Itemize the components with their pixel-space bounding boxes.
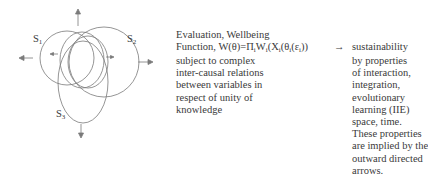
body-line: knowledge	[176, 104, 264, 116]
arrow-down-icon	[79, 124, 84, 138]
title-line-2: Function, W(θ)=ΠiWi(Xi(θi(εi))	[176, 41, 308, 53]
body-line: between variables in	[176, 79, 264, 91]
body-line: These properties	[352, 128, 428, 140]
arrow-left-icon	[19, 56, 33, 61]
label-s2: S2	[127, 33, 136, 44]
body-line: subject to complex	[176, 55, 264, 67]
body-line: arrows.	[352, 165, 428, 177]
title-line-1: Evaluation, Wellbeing	[176, 29, 308, 41]
sustainability-description: by properties of interaction, integratio…	[352, 55, 428, 177]
right-arrow-icon: →	[334, 41, 345, 53]
inner-ellipse-a	[60, 32, 104, 88]
label-s1: S1	[33, 33, 42, 44]
sustainability-title: sustainability	[352, 41, 408, 53]
interaction-diagram	[0, 0, 160, 150]
wellbeing-function-title: Evaluation, Wellbeing Function, W(θ)=ΠiW…	[176, 29, 308, 53]
body-line: are implied by the	[352, 140, 428, 152]
body-line: outward directed	[352, 153, 428, 165]
label-s3: S3	[56, 108, 65, 119]
body-line: respect of unity of	[176, 92, 264, 104]
inner-arrow-left-icon	[50, 53, 58, 56]
arrow-right-icon	[138, 60, 153, 65]
arrow-up-icon	[76, 9, 81, 26]
wellbeing-description: subject to complex inter-causal relation…	[176, 55, 264, 116]
inner-ellipse-b	[68, 36, 108, 88]
body-line: space, time.	[352, 116, 428, 128]
body-line: evolutionary	[352, 92, 428, 104]
body-line: learning (IIE)	[352, 104, 428, 116]
body-line: integration,	[352, 79, 428, 91]
body-line: inter-causal relations	[176, 67, 264, 79]
body-line: by properties	[352, 55, 428, 67]
body-line: of interaction,	[352, 67, 428, 79]
